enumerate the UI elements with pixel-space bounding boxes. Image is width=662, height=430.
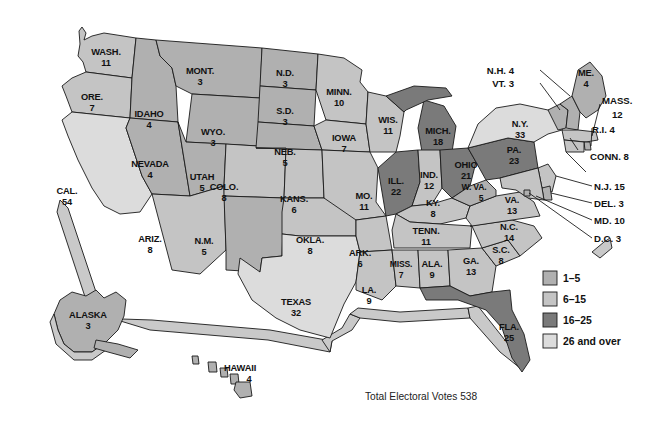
callout-VT: VT. 3 — [492, 78, 514, 89]
state-RI[interactable] — [584, 142, 591, 150]
label-SC-votes: 8 — [498, 256, 503, 266]
label-AZ-votes: 8 — [147, 245, 152, 255]
label-ID-name: IDAHO — [134, 109, 163, 119]
label-CO-name: COLO. — [210, 182, 239, 192]
label-NC-votes: 14 — [504, 233, 515, 243]
label-MO-name: MO. — [355, 191, 372, 201]
label-OK-name: OKLA. — [296, 235, 324, 245]
label-IA-name: IOWA — [332, 133, 357, 143]
label-IL-name: ILL. — [388, 176, 404, 186]
label-OR-name: ORE. — [81, 92, 103, 102]
label-KS-name: KANS. — [280, 194, 308, 204]
label-NE-votes: 5 — [282, 158, 287, 168]
state-MS[interactable] — [392, 250, 420, 288]
label-IN-votes: 12 — [424, 181, 434, 191]
label-TN-votes: 11 — [421, 237, 431, 247]
label-AL-name: ALA. — [421, 259, 442, 269]
callout-RI: R.I. 4 — [592, 124, 616, 135]
label-KY-votes: 8 — [430, 209, 435, 219]
state-AR[interactable] — [356, 216, 392, 252]
label-AL-votes: 9 — [429, 270, 434, 280]
label-VA-name: VA. — [505, 195, 519, 205]
label-AR-name: ARK. — [349, 248, 371, 258]
map-caption: Total Electoral Votes 538 — [365, 391, 477, 402]
label-MI-votes: 18 — [433, 137, 443, 147]
legend-swatch-0 — [543, 271, 557, 285]
callout-MA-name: MASS. — [602, 95, 632, 106]
label-WA-votes: 11 — [101, 58, 111, 68]
label-SD-votes: 3 — [282, 117, 287, 127]
callout-NH: N.H. 4 — [487, 65, 515, 76]
label-TN-name: TENN. — [412, 226, 439, 236]
map-svg: WASH. 11 ORE. 7 CAL. 54 IDAHO 4 NEVADA 4… — [0, 0, 662, 430]
label-NM-votes: 5 — [201, 247, 206, 257]
callout-CT: CONN. 8 — [590, 151, 630, 162]
electoral-vote-map: WASH. 11 ORE. 7 CAL. 54 IDAHO 4 NEVADA 4… — [0, 0, 662, 430]
legend-swatch-2 — [543, 313, 557, 327]
label-NY-name: N.Y. — [512, 119, 528, 129]
label-WY-votes: 3 — [210, 138, 215, 148]
label-ND-votes: 3 — [282, 79, 287, 89]
label-GA-name: GA. — [463, 256, 479, 266]
label-CA-votes: 54 — [62, 197, 73, 207]
label-MO-votes: 11 — [359, 202, 369, 212]
label-UT-name: UTAH — [190, 172, 215, 182]
state-WY[interactable] — [186, 94, 260, 146]
label-VA-votes: 13 — [507, 206, 517, 216]
label-NC-name: N.C. — [500, 222, 518, 232]
state-NE[interactable] — [256, 122, 322, 150]
label-MT-name: MONT. — [186, 66, 214, 76]
label-WV-votes: 5 — [479, 193, 484, 203]
label-IA-votes: 7 — [341, 144, 346, 154]
label-AK-name: ALASKA — [69, 310, 107, 320]
label-CO-votes: 8 — [221, 193, 226, 203]
label-WV-name: W. VA. — [461, 182, 486, 192]
label-NY-votes: 33 — [515, 130, 525, 140]
label-IL-votes: 22 — [391, 187, 401, 197]
callout-DE: DEL. 3 — [594, 198, 624, 209]
label-GA-votes: 13 — [466, 267, 476, 277]
legend-swatch-3 — [543, 334, 557, 348]
label-PA-votes: 23 — [509, 156, 519, 166]
label-ND-name: N.D. — [276, 68, 294, 78]
label-OR-votes: 7 — [89, 103, 94, 113]
label-HI-name: HAWAII — [224, 363, 256, 373]
label-TX-name: TEXAS — [281, 297, 311, 307]
label-AZ-name: ARIZ. — [138, 234, 162, 244]
label-MN-name: MINN. — [326, 87, 352, 97]
state-CT[interactable] — [564, 140, 584, 152]
callout-MD: MD. 10 — [594, 215, 625, 226]
callout-MA-votes: 12 — [612, 109, 623, 120]
label-CA-name: CAL. — [56, 186, 77, 196]
callout-ME-name: ME. — [578, 68, 594, 78]
label-SD-name: S.D. — [276, 106, 293, 116]
label-AK-votes: 3 — [85, 321, 90, 331]
label-FL-name: FLA. — [499, 322, 519, 332]
label-PA-name: PA. — [507, 145, 521, 155]
label-MT-votes: 3 — [197, 77, 202, 87]
label-IN-name: IND. — [420, 170, 438, 180]
label-WI-votes: 11 — [383, 126, 393, 136]
legend-label-2: 16–25 — [563, 315, 592, 326]
state-AL[interactable] — [418, 250, 450, 288]
label-KS-votes: 6 — [291, 205, 296, 215]
label-KY-name: KY. — [426, 198, 440, 208]
legend-swatch-1 — [543, 292, 557, 306]
label-WI-name: WIS. — [378, 115, 398, 125]
label-MS-votes: 7 — [399, 270, 404, 280]
callout-NJ: N.J. 15 — [594, 181, 626, 192]
label-MS-name: MISS. — [390, 259, 413, 269]
label-UT-votes: 5 — [199, 183, 204, 193]
label-FL-votes: 25 — [504, 333, 514, 343]
label-MN-votes: 10 — [334, 98, 344, 108]
label-OH-name: OHIO — [454, 160, 477, 170]
label-OH-votes: 21 — [461, 171, 471, 181]
legend-label-0: 1–5 — [563, 273, 581, 284]
label-NM-name: N.M. — [194, 236, 213, 246]
label-LA-name: LA. — [362, 285, 377, 295]
label-NV-name: NEVADA — [131, 159, 169, 169]
legend-label-1: 6–15 — [563, 294, 586, 305]
label-AR-votes: 6 — [357, 259, 362, 269]
label-WY-name: WYO. — [201, 127, 225, 137]
label-WA-name: WASH. — [91, 47, 121, 57]
